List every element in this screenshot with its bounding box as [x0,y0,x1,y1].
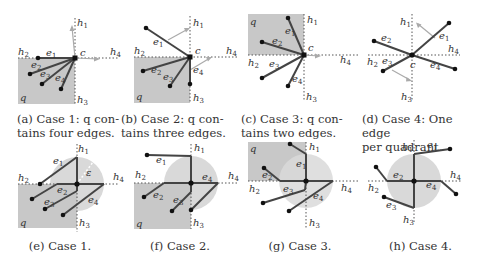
svg-text:h3: h3 [193,92,204,105]
caption-g: (g) Case 3. [240,239,360,253]
svg-text:c: c [195,45,201,56]
svg-text:c: c [308,42,314,53]
diagram-case1-disk: h1 h2 h3 h4 e1 e2 e3 e4 ε q [0,132,120,242]
svg-text:h1: h1 [400,16,411,29]
svg-text:h4: h4 [228,170,239,183]
svg-text:h3: h3 [403,214,414,227]
caption-f: (f) Case 2. [120,239,240,253]
svg-text:h2: h2 [134,45,145,58]
diagram-case3-disk: h1 h2 h3 h4 e1 e2 e3 e4 q [240,132,360,242]
panel-e: h1 h2 h3 h4 e1 e2 e3 e4 ε q (e) Case 1. [0,132,120,264]
svg-text:h1: h1 [77,17,88,30]
svg-text:h2: h2 [249,183,260,196]
svg-text:e3: e3 [382,55,392,68]
diagram-case4-edges: h1 h2 h3 h4 e1 e2 e3 e4 c [360,0,481,110]
svg-text:h4: h4 [226,45,237,58]
svg-text:q: q [136,218,142,229]
svg-text:h4: h4 [340,54,351,67]
panel-b: h1 h2 h3 h4 e1 e2 e3 e4 c q (b) Case 2: … [120,0,240,132]
svg-text:q: q [250,16,256,27]
svg-text:h2: h2 [18,46,29,59]
diagram-case3-edges: h1 h2 h3 h4 e1 e2 e3 e4 c q [240,0,360,110]
svg-text:h3: h3 [309,217,320,230]
svg-text:h1: h1 [402,141,413,154]
diagram-case1-edges: h1 h2 h3 h4 e1 e2 e3 e4 c q [0,0,120,110]
svg-text:h4: h4 [450,169,461,182]
svg-text:e4: e4 [292,73,303,86]
svg-text:h1: h1 [309,141,320,154]
svg-text:q: q [20,92,26,103]
svg-text:e3: e3 [269,58,279,71]
svg-text:c: c [80,47,86,58]
svg-text:ε: ε [86,167,91,178]
svg-text:h2: h2 [367,56,378,69]
svg-text:h1: h1 [307,14,318,27]
panel-h: h1 h2 h3 h4 e1 e2 e3 e4 (h) Case 4. [360,132,481,264]
svg-text:h3: h3 [306,91,317,104]
svg-text:e1: e1 [427,139,437,152]
svg-text:h3: h3 [401,91,412,104]
svg-text:h1: h1 [193,17,204,30]
svg-text:e4: e4 [430,59,441,72]
caption-h: (h) Case 4. [360,239,481,253]
panel-g: h1 h2 h3 h4 e1 e2 e3 e4 q (g) Case 3. [240,132,360,264]
svg-text:h4: h4 [448,43,459,56]
svg-text:e1: e1 [439,30,449,43]
panel-c: h1 h2 h3 h4 e1 e2 e3 e4 c q (c) Case 3: … [240,0,360,132]
diagram-case2-disk: h1 h2 h3 h4 e1 e2 e3 e4 q [120,132,240,242]
caption-c-line1: (c) Case 3: q con- [241,112,359,126]
svg-text:h1: h1 [78,143,89,156]
svg-text:h2: h2 [368,182,379,195]
diagram-case2-edges: h1 h2 h3 h4 e1 e2 e3 e4 c q [120,0,240,110]
svg-text:e2: e2 [381,32,391,45]
caption-b-line1: (b) Case 2: q con- [121,112,239,126]
svg-text:e4: e4 [193,64,204,77]
panel-f: h1 h2 h3 h4 e1 e2 e3 e4 q (f) Case 2. [120,132,240,264]
svg-text:q: q [20,217,26,228]
svg-text:h3: h3 [77,94,88,107]
svg-text:h3: h3 [193,217,204,230]
panel-d: h1 h2 h3 h4 e1 e2 e3 e4 c (d) Case 4: On… [360,0,481,132]
caption-e: (e) Case 1. [0,239,120,253]
svg-text:h2: h2 [135,169,146,182]
svg-text:c: c [410,59,416,70]
diagram-case4-disk: h1 h2 h3 h4 e1 e2 e3 e4 [360,132,481,242]
svg-text:h1: h1 [194,142,205,155]
svg-text:e1: e1 [53,155,63,168]
svg-text:h2: h2 [248,57,259,70]
svg-text:q: q [136,91,142,102]
svg-text:h2: h2 [18,172,29,185]
panel-a: h1 h2 h3 h4 e1 e2 e3 e4 c q (a) Case 1: … [0,0,120,132]
svg-text:h3: h3 [79,217,90,230]
caption-a-line1: (a) Case 1: q con- [17,112,122,126]
svg-text:q: q [250,143,256,154]
svg-text:h4: h4 [341,182,352,195]
